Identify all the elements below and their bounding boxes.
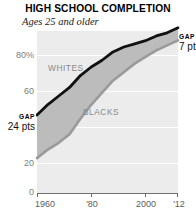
gap-start-word: GAP — [2, 113, 35, 121]
gap-band-area — [37, 28, 178, 158]
x-tick-label-1960: 1960 — [35, 199, 55, 209]
x-tick-label-2000: 2000 — [136, 199, 156, 209]
x-axis-line — [37, 193, 178, 194]
series-label-whites: WHITES — [48, 63, 84, 73]
x-tick-mark-2000 — [145, 193, 146, 197]
gap-end-value: 7 pts — [179, 41, 196, 52]
x-tick-label-2012: '12 — [173, 199, 185, 209]
x-tick-mark-1980 — [91, 193, 92, 197]
gap-annotation-end: GAP 7 pts — [179, 33, 196, 52]
series-label-blacks: BLACKS — [83, 107, 119, 117]
y-tick-60: 60 — [2, 86, 34, 96]
x-tick-mark-2012 — [177, 193, 178, 197]
x-tick-label-1980: '80 — [86, 199, 98, 209]
chart-card: HIGH SCHOOL COMPLETION Ages 25 and older… — [0, 0, 196, 216]
plot-area: WHITES BLACKS — [37, 31, 178, 193]
y-tick-20: 20 — [2, 158, 34, 168]
gap-end-word: GAP — [179, 33, 196, 41]
y-tick-80: 80% — [2, 50, 34, 60]
chart-title: HIGH SCHOOL COMPLETION — [0, 3, 196, 14]
y-tick-0: 0 — [2, 187, 34, 197]
chart-subtitle: Ages 25 and older — [22, 16, 99, 27]
gap-annotation-start: GAP 24 pts — [2, 112, 36, 133]
x-tick-mark-1960 — [37, 193, 38, 197]
gap-start-value: 24 pts — [2, 121, 35, 132]
